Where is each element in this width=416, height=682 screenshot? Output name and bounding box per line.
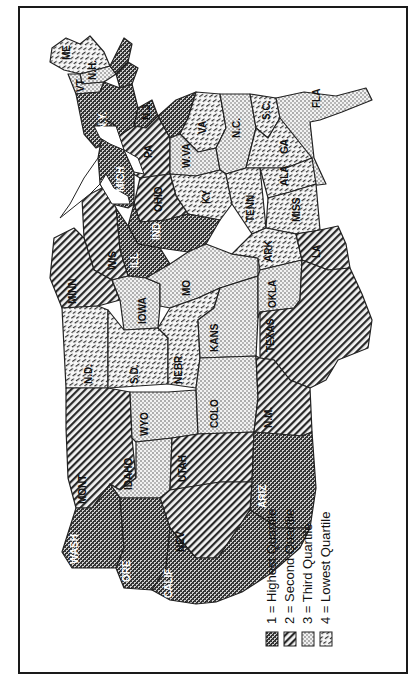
label-okla: OKLA — [267, 280, 278, 308]
legend-swatch-third — [302, 632, 314, 646]
label-ore: ORE — [121, 560, 132, 582]
label-nj: N.J. — [141, 101, 152, 120]
label-wyo: WYO — [139, 412, 150, 436]
label-utah: UTAH — [177, 455, 188, 482]
label-fla: FLA — [311, 89, 322, 108]
label-vt: VT — [75, 79, 86, 92]
label-minn: MINN — [67, 278, 78, 304]
legend-swatch-lowest — [320, 632, 332, 646]
label-miss: MISS — [291, 197, 302, 222]
label-iowa: IOWA — [137, 297, 148, 324]
label-ark: ARK — [263, 240, 274, 262]
label-ariz: ARIZ — [257, 485, 268, 508]
legend-label-second: 2 = Second Quartile — [282, 509, 297, 624]
label-pa: PA — [143, 145, 154, 158]
label-ohio: OHIO — [153, 186, 164, 212]
label-nev: NEV — [175, 531, 186, 552]
legend-label-highest: 1 = Highest Quartile — [264, 509, 279, 624]
us-map-container: ME N.H. VT N.Y. N.J. PA VA W.VA N.C. S.C… — [20, 8, 406, 672]
label-calif: CALIF — [163, 569, 174, 598]
label-nebr: NEBR — [173, 355, 184, 384]
label-nc: N.C. — [231, 118, 242, 138]
label-sd: S.D. — [129, 364, 140, 384]
label-wis: WIS — [107, 251, 118, 270]
label-me: ME — [61, 45, 72, 60]
label-ill: ILL — [129, 253, 140, 268]
state-iowa — [112, 276, 160, 330]
label-nm: N.M. — [263, 407, 274, 428]
label-mo: MO — [181, 280, 192, 296]
label-va: VA — [197, 121, 208, 134]
label-wash: WASH — [69, 534, 80, 564]
label-texas: TEXAS — [265, 318, 276, 352]
legend-label-third: 3 = Third Quartile — [300, 523, 315, 624]
label-idaho: IDAHO — [123, 458, 134, 490]
us-quartile-map: ME N.H. VT N.Y. N.J. PA VA W.VA N.C. S.C… — [20, 8, 406, 672]
label-la: LA — [311, 245, 322, 258]
label-mich: MICH — [115, 166, 126, 192]
label-ny: N.Y. — [97, 111, 108, 130]
legend-label-lowest: 4 = Lowest Quartile — [318, 512, 333, 624]
label-ga: GA — [279, 139, 290, 154]
label-tenn: TENN — [245, 195, 256, 222]
label-mont: MONT — [77, 475, 88, 504]
label-kans: KANS — [209, 323, 220, 352]
label-wva: W.VA — [181, 143, 192, 168]
legend-swatch-second — [284, 632, 296, 646]
label-nd: N.D. — [83, 364, 94, 384]
label-ky: KY — [201, 190, 212, 204]
state-colo — [196, 356, 258, 434]
label-ind: IND — [151, 223, 162, 240]
label-ala: ALA — [279, 165, 290, 186]
label-sc: S.C. — [261, 100, 272, 120]
label-nh: N.H. — [87, 60, 98, 80]
legend-swatch-highest — [266, 632, 278, 646]
label-colo: COLO — [209, 399, 220, 428]
